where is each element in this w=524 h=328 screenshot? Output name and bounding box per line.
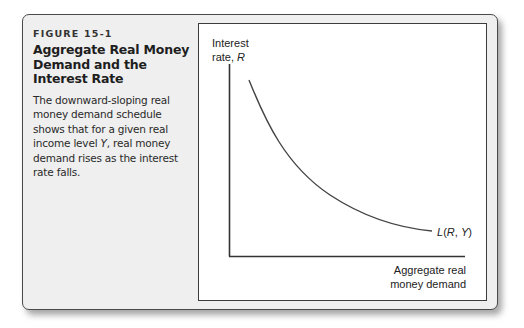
y-axis-label-line2: rate, R	[212, 51, 245, 63]
x-axis-label-line2: money demand	[390, 278, 466, 290]
x-axis-label-line1: Aggregate real	[394, 264, 466, 276]
y-axis-label-line1: Interest	[212, 37, 249, 49]
money-demand-curve	[249, 80, 432, 231]
curve-label: L(R, Y)	[437, 226, 472, 238]
money-demand-chart: Interest rate, R L(R, Y) Aggregate real …	[0, 0, 524, 328]
